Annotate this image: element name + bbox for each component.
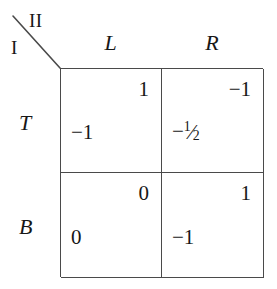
payoff-grid: 1 −1 −1 −1⁄2 0 0 1 −1 xyxy=(60,68,263,277)
column-player-label: II xyxy=(29,11,43,30)
row-player-payoff-TL: −1 xyxy=(71,121,93,144)
row-player-payoff-TR: −1⁄2 xyxy=(172,119,200,144)
payoff-cell-TR: −1 −1⁄2 xyxy=(162,69,264,173)
payoff-cell-BL: 0 0 xyxy=(61,173,162,278)
row-player-payoff-BL: 0 xyxy=(71,226,82,249)
column-header-L: L xyxy=(60,32,161,54)
column-player-payoff-BR: 1 xyxy=(241,182,252,205)
payoff-cell-TL: 1 −1 xyxy=(61,69,162,173)
payoff-cell-BR: 1 −1 xyxy=(162,173,264,278)
fraction-sign: − xyxy=(172,120,184,144)
column-header-R: R xyxy=(161,32,263,54)
fraction-denominator: 2 xyxy=(193,129,200,144)
row-player-label: I xyxy=(11,38,18,57)
row-player-payoff-BR: −1 xyxy=(172,226,194,249)
column-player-payoff-TR: −1 xyxy=(229,78,251,101)
row-header-T: T xyxy=(19,112,55,134)
row-header-B: B xyxy=(19,216,55,238)
column-player-payoff-TL: 1 xyxy=(139,78,150,101)
payoff-matrix-figure: II I L R T B 1 −1 −1 −1⁄2 0 0 1 −1 xyxy=(0,0,277,289)
negative-one-half-fraction: −1⁄2 xyxy=(172,119,200,144)
column-player-payoff-BL: 0 xyxy=(139,182,150,205)
